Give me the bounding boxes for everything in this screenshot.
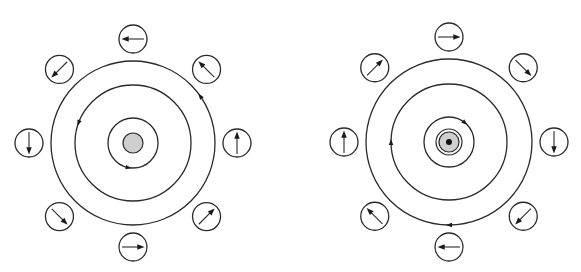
compass-top-left	[45, 55, 73, 83]
compass-top	[119, 25, 147, 53]
compass-bottom	[119, 233, 147, 261]
compass-top-right	[193, 55, 221, 83]
compass-right	[223, 129, 251, 157]
compass-bottom-left	[45, 203, 73, 231]
compass-right	[540, 128, 568, 156]
ring-arrow-icon	[77, 120, 81, 126]
compass-top-left	[361, 54, 389, 82]
compass-left	[330, 128, 358, 156]
ring-arrow-icon	[198, 94, 203, 100]
wire-core	[123, 133, 143, 153]
compass-bottom-left	[361, 202, 389, 230]
figure-right	[330, 23, 568, 261]
ring-arrow-icon	[125, 165, 131, 169]
compass-top-right	[509, 54, 537, 82]
magnetic-field-diagram	[0, 0, 581, 272]
compass-bottom	[435, 233, 463, 261]
compass-left	[15, 129, 43, 157]
ring-arrow-icon	[446, 223, 452, 228]
compass-bottom-right	[509, 202, 537, 230]
field-lines-svg	[0, 0, 581, 272]
current-out-dot-icon	[446, 139, 452, 145]
compass-top	[435, 23, 463, 51]
compass-bottom-right	[193, 203, 221, 231]
ring-arrow-icon	[389, 139, 394, 145]
figure-left	[15, 25, 251, 261]
